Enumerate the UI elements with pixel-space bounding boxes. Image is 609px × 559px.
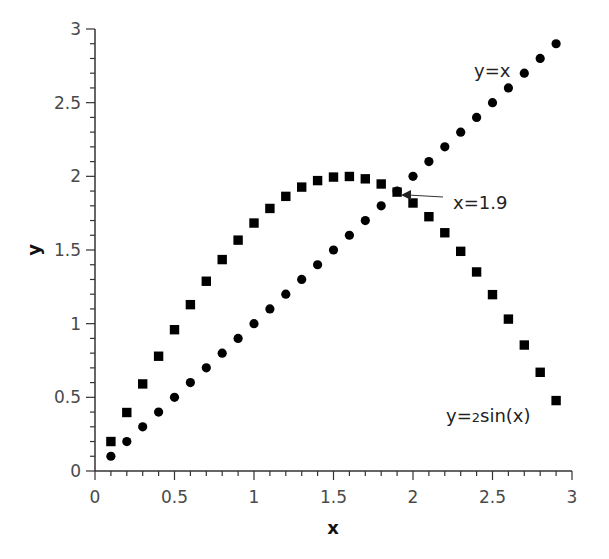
square-marker-icon bbox=[313, 176, 322, 185]
circle-marker-icon bbox=[154, 407, 163, 416]
y-tick-label: 2.5 bbox=[54, 93, 81, 113]
x-tick-label: 2 bbox=[408, 487, 419, 507]
circle-marker-icon bbox=[234, 334, 243, 343]
annotation-y-equals-x: y=x bbox=[474, 60, 511, 81]
x-ticks: 00.511.522.53 bbox=[90, 471, 578, 507]
x-tick-label: 1 bbox=[249, 487, 260, 507]
y-tick-label: 0 bbox=[70, 461, 81, 481]
y-tick-label: 1 bbox=[70, 314, 81, 334]
circle-marker-icon bbox=[329, 245, 338, 254]
x-tick-label: 1.5 bbox=[320, 487, 347, 507]
series-markers bbox=[106, 39, 561, 461]
circle-marker-icon bbox=[488, 98, 497, 107]
circle-marker-icon bbox=[408, 172, 417, 181]
circle-marker-icon bbox=[345, 231, 354, 240]
circle-marker-icon bbox=[536, 54, 545, 63]
x-tick-label: 0.5 bbox=[161, 487, 188, 507]
circle-marker-icon bbox=[218, 349, 227, 358]
series-y-equals-x bbox=[106, 39, 560, 461]
square-marker-icon bbox=[106, 437, 115, 446]
chart: 00.511.522.53 00.511.522.53 x y y=x y=2s… bbox=[0, 0, 609, 559]
circle-marker-icon bbox=[424, 157, 433, 166]
arrow-head-icon bbox=[401, 190, 411, 200]
annotation-arrow bbox=[401, 190, 443, 200]
square-marker-icon bbox=[408, 198, 417, 207]
circle-marker-icon bbox=[361, 216, 370, 225]
circle-marker-icon bbox=[377, 201, 386, 210]
y-tick-label: 1.5 bbox=[54, 240, 81, 260]
circle-marker-icon bbox=[520, 69, 529, 78]
circle-marker-icon bbox=[122, 437, 131, 446]
square-marker-icon bbox=[520, 340, 529, 349]
y-axis-title: y bbox=[23, 244, 44, 256]
square-marker-icon bbox=[424, 212, 433, 221]
square-marker-icon bbox=[536, 368, 545, 377]
y-ticks: 00.511.522.53 bbox=[54, 19, 95, 481]
square-marker-icon bbox=[504, 314, 513, 323]
square-marker-icon bbox=[551, 396, 560, 405]
square-marker-icon bbox=[297, 182, 306, 191]
square-marker-icon bbox=[265, 204, 274, 213]
circle-marker-icon bbox=[265, 304, 274, 313]
square-marker-icon bbox=[361, 174, 370, 183]
square-marker-icon bbox=[249, 218, 258, 227]
circle-marker-icon bbox=[313, 260, 322, 269]
circle-marker-icon bbox=[552, 39, 561, 48]
circle-marker-icon bbox=[472, 113, 481, 122]
circle-marker-icon bbox=[249, 319, 258, 328]
square-marker-icon bbox=[488, 290, 497, 299]
y-tick-label: 2 bbox=[70, 166, 81, 186]
y-tick-label: 0.5 bbox=[54, 387, 81, 407]
square-marker-icon bbox=[472, 267, 481, 276]
circle-marker-icon bbox=[281, 290, 290, 299]
circle-marker-icon bbox=[456, 128, 465, 137]
square-marker-icon bbox=[377, 179, 386, 188]
x-tick-label: 2.5 bbox=[479, 487, 506, 507]
square-marker-icon bbox=[170, 325, 179, 334]
circle-marker-icon bbox=[297, 275, 306, 284]
circle-marker-icon bbox=[202, 363, 211, 372]
square-marker-icon bbox=[392, 187, 401, 196]
square-marker-icon bbox=[202, 277, 211, 286]
square-marker-icon bbox=[122, 408, 131, 417]
annotation-2sin: y=2sin(x) bbox=[446, 405, 531, 426]
circle-marker-icon bbox=[106, 452, 115, 461]
square-marker-icon bbox=[440, 228, 449, 237]
square-marker-icon bbox=[456, 247, 465, 256]
circle-marker-icon bbox=[440, 142, 449, 151]
circle-marker-icon bbox=[170, 393, 179, 402]
x-axis-title: x bbox=[327, 517, 339, 538]
square-marker-icon bbox=[218, 255, 227, 264]
square-marker-icon bbox=[154, 352, 163, 361]
square-marker-icon bbox=[281, 192, 290, 201]
x-tick-label: 3 bbox=[567, 487, 578, 507]
square-marker-icon bbox=[233, 235, 242, 244]
circle-marker-icon bbox=[138, 422, 147, 431]
square-marker-icon bbox=[186, 300, 195, 309]
x-tick-label: 0 bbox=[90, 487, 101, 507]
square-marker-icon bbox=[329, 172, 338, 181]
square-marker-icon bbox=[138, 379, 147, 388]
circle-marker-icon bbox=[186, 378, 195, 387]
annotation-x-1-9: x=1.9 bbox=[453, 192, 507, 213]
square-marker-icon bbox=[345, 172, 354, 181]
y-tick-label: 3 bbox=[70, 19, 81, 39]
circle-marker-icon bbox=[504, 83, 513, 92]
